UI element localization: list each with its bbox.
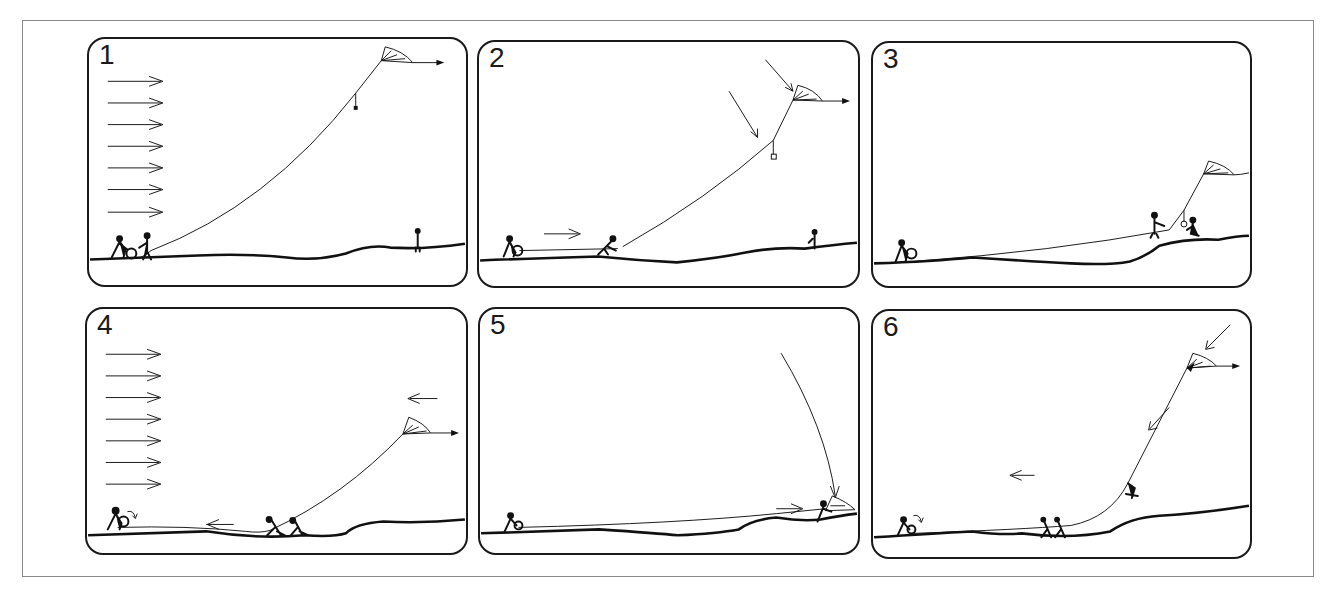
panel-1: 1 [87,37,468,287]
panel-5-illustration [480,309,858,553]
panel-1-illustration [89,39,466,285]
panel-4-illustration [87,309,466,553]
kite-icon [825,496,855,511]
person-icon [1055,518,1065,538]
panel-5-number: 5 [490,311,506,339]
wind-arrows-icon [108,76,163,217]
kite-icon [381,47,444,66]
panel-2: 2 [477,40,860,288]
left-arrow-icon [408,394,438,404]
person-icon [1126,483,1138,498]
panel-6-illustration [873,311,1250,557]
person-icon [598,236,616,254]
ground-line [480,243,857,263]
kite-icon [1204,161,1249,175]
person-icon [267,517,285,535]
panel-1-number: 1 [99,41,115,69]
kite-line [151,61,381,251]
kite-icon [403,417,459,436]
person-icon [1187,218,1199,236]
right-arrow-icon [544,229,580,239]
person-icon [1151,213,1165,238]
person-icon [290,518,308,535]
curved-down-arrow-icon [781,353,839,498]
left-arrow-icon [1010,470,1035,480]
person-icon [139,233,151,259]
panel-3-illustration [873,43,1250,286]
person-icon [896,240,908,261]
panel-2-number: 2 [489,44,505,72]
ground-line [874,236,1249,264]
kite-icon [793,85,850,104]
kite-line [623,100,793,247]
panel-3-number: 3 [883,45,899,73]
kite-line [270,434,403,530]
panel-4-number: 4 [97,311,113,339]
left-arrow-icon [206,520,234,530]
wind-arrows-icon [106,349,161,489]
down-arrow-icon [729,91,758,137]
down-left-arrow-icon [1149,407,1170,430]
panel-6: 6 [871,309,1252,559]
ground-line [481,514,857,536]
kite-line [913,174,1203,262]
person-icon [809,230,817,249]
kite-icon [1187,353,1240,369]
panel-3: 3 [871,41,1252,288]
panel-6-number: 6 [883,313,899,341]
down-arrow-icon [765,60,793,91]
down-left-arrow-icon [1206,325,1231,350]
person-icon [112,236,128,257]
ground-line [874,506,1249,537]
panel-4: 4 [85,307,468,555]
panel-5: 5 [478,307,860,555]
kite-line [1128,368,1187,483]
panel-2-illustration [479,42,858,286]
